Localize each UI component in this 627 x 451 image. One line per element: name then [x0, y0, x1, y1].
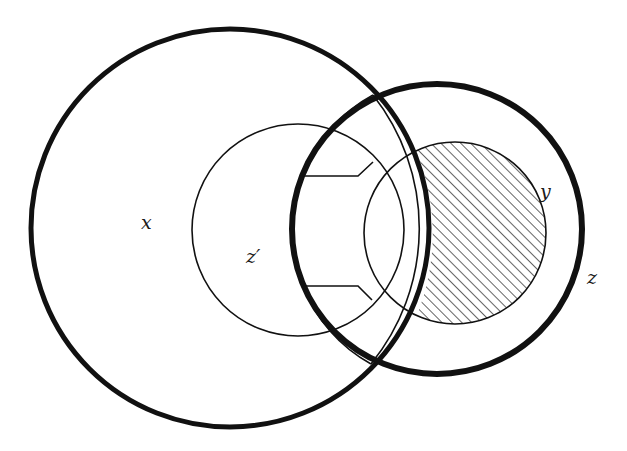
label-z-prime: z′ [246, 247, 260, 266]
label-z: z [587, 268, 597, 287]
label-y: y [540, 182, 551, 201]
venn-diagram [0, 0, 627, 451]
shaded-region [400, 120, 560, 345]
circle-x [31, 29, 429, 427]
circle-z-prime [192, 124, 404, 336]
label-x: x [141, 213, 152, 232]
